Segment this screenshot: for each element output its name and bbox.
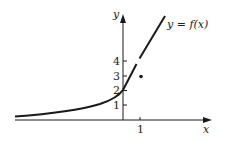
curve-left-branch xyxy=(15,90,123,117)
x-axis-label: x xyxy=(203,123,210,136)
y-tick-label-2: 2 xyxy=(113,84,120,97)
curve-label: y = f(x) xyxy=(166,18,208,31)
y-tick-label-1: 1 xyxy=(113,99,120,112)
y-tick-label-3: 3 xyxy=(113,70,120,83)
y-tick-label-4: 4 xyxy=(113,55,120,68)
y-axis-arrow-icon xyxy=(120,14,126,23)
filled-point xyxy=(139,75,143,79)
curve-right-branch-upper xyxy=(140,16,166,59)
function-graph: y x 1 1 2 3 4 y = f(x) xyxy=(0,0,228,142)
x-tick-label-1: 1 xyxy=(137,123,144,136)
y-axis-label: y xyxy=(112,8,120,21)
curve-right-branch-lower xyxy=(123,64,137,90)
